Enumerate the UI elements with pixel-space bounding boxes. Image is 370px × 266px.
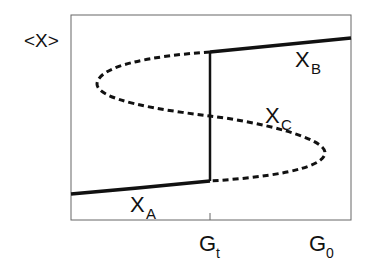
y-axis-label: <X>	[24, 30, 59, 51]
label-xa: X A	[130, 192, 156, 222]
bistability-diagram: <X> X B X C X A G t G 0	[0, 0, 370, 266]
svg-text:X: X	[295, 47, 310, 72]
label-xb: X B	[295, 47, 321, 77]
svg-text:G: G	[199, 231, 216, 256]
tick-label-gt: G t	[199, 231, 220, 261]
tick-label-g0: G 0	[309, 231, 334, 261]
svg-text:G: G	[309, 231, 326, 256]
svg-text:0: 0	[326, 245, 334, 261]
svg-text:A: A	[146, 205, 156, 222]
svg-text:X: X	[265, 103, 280, 128]
svg-text:C: C	[281, 116, 292, 133]
svg-text:t: t	[216, 245, 220, 261]
svg-text:B: B	[311, 60, 321, 77]
svg-text:X: X	[130, 192, 145, 217]
curve-xb	[210, 38, 351, 52]
